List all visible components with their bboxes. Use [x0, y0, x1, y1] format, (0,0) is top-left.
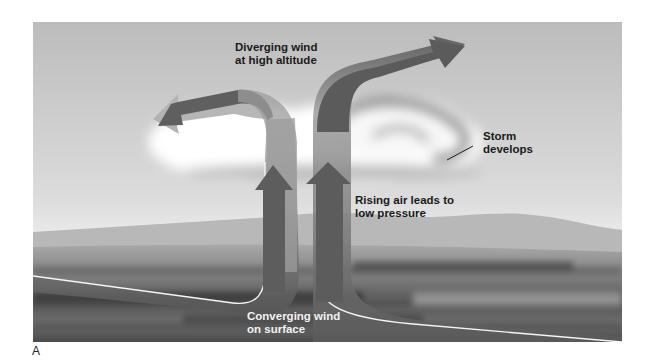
label-converging-wind: Converging wind on surface [247, 310, 340, 336]
storm-formation-illustration: Diverging wind at high altitude Storm de… [33, 22, 622, 342]
label-diverging-wind: Diverging wind at high altitude [235, 41, 317, 67]
label-storm-develops: Storm develops [483, 130, 533, 156]
illustration-canvas [33, 22, 622, 342]
panel-letter: A [32, 344, 40, 358]
label-rising-air: Rising air leads to low pressure [355, 194, 454, 220]
